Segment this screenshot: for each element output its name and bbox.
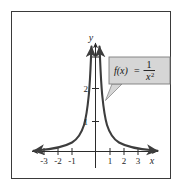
curve-left-branch [34,47,92,151]
y-tick-label-1: 1 [84,117,89,127]
x-tick-labels: -3 -2 -1 1 2 3 [40,156,141,166]
x-tick-label-3: 3 [136,156,141,166]
y-axis [92,43,99,168]
formula-fn: f(x) [114,65,129,77]
y-tick-label-2: 2 [84,84,89,94]
graph-canvas: f(x) = 1 x 2 -3 -2 -1 1 2 3 1 2 x y [0,0,185,193]
callout-pointer [106,84,123,101]
formula-equals: = [134,65,140,76]
x-axis-label: x [149,155,155,166]
y-axis-label: y [88,32,94,43]
x-tick-label-1: 1 [108,156,113,166]
formula-denominator-exponent: 2 [151,71,154,78]
formula-numerator: 1 [147,59,152,70]
x-tick-label-2: 2 [122,156,127,166]
x-tick-label-neg2: -2 [54,156,62,166]
figure-container: f(x) = 1 x 2 -3 -2 -1 1 2 3 1 2 x y [0,0,185,193]
x-tick-label-neg3: -3 [40,156,48,166]
x-tick-label-neg1: -1 [68,156,76,166]
